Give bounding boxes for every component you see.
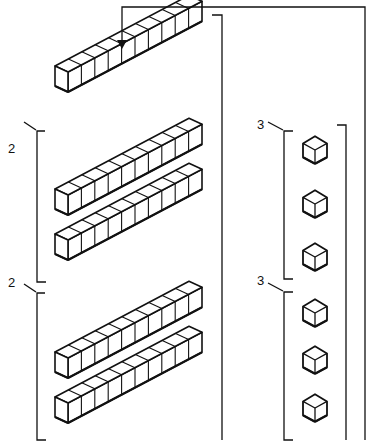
unit-group-count-label: 3 (257, 118, 264, 131)
unit-cubes (303, 136, 327, 422)
rod-group-1-leader (24, 122, 36, 130)
unit-cube (303, 190, 327, 218)
rod-group-2-leader (24, 284, 36, 292)
rods-total-bracket (212, 15, 222, 440)
unit-group-1-bracket (284, 131, 293, 279)
unit-cube (303, 299, 327, 327)
units-total-bracket (337, 125, 346, 440)
unit-group-count-label: 3 (257, 274, 264, 287)
unit-cube (303, 243, 327, 271)
rod-group-count-label: 2 (8, 276, 15, 289)
ten-rods (55, 0, 202, 423)
rod-group-2-bracket (37, 293, 46, 440)
unit-cube (303, 394, 327, 422)
rod-group-count-label: 2 (8, 142, 15, 155)
rod-group-1-bracket (37, 131, 46, 282)
ten-rod (55, 0, 202, 92)
unit-cube (303, 136, 327, 164)
unit-group-1-leader (268, 122, 283, 130)
unit-cube (303, 346, 327, 374)
diagram-canvas (0, 0, 372, 444)
unit-group-2-bracket (284, 292, 293, 440)
unit-group-2-leader (268, 283, 283, 291)
